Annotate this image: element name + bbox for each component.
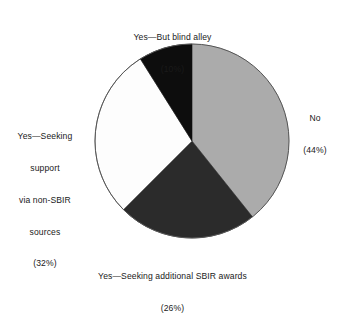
slice-label-additional-sbir: Yes—Seeking additional SBIR awards (26%) <box>0 250 345 317</box>
slice-label-non-sbir-line3: via non-SBIR <box>3 195 87 206</box>
slice-label-non-sbir-line2: support <box>3 163 87 174</box>
slice-label-blind-alley-name: Yes—But blind alley <box>0 32 345 43</box>
slice-label-additional-sbir-name: Yes—Seeking additional SBIR awards <box>0 271 345 282</box>
slice-label-non-sbir-line4: sources <box>3 227 87 238</box>
slice-label-no-name: No <box>290 113 340 124</box>
slice-label-no: No (44%) <box>290 92 340 177</box>
slice-label-non-sbir-line1: Yes—Seeking <box>3 131 87 142</box>
slice-label-no-percent: (44%) <box>290 145 340 156</box>
slice-label-blind-alley: Yes—But blind alley (10%) <box>0 11 345 96</box>
slice-label-additional-sbir-percent: (26%) <box>0 303 345 314</box>
slice-label-blind-alley-percent: (10%) <box>0 64 345 75</box>
